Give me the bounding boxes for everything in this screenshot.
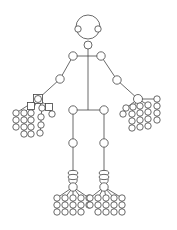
left-finger-joint [28, 131, 34, 137]
right-finger-joint [137, 103, 143, 109]
right-toe-joint [111, 195, 117, 201]
right-wrist-joint [134, 95, 143, 104]
right-toe-joint [119, 202, 125, 208]
left-toe-joint [70, 202, 76, 208]
l-knee-joint [69, 139, 77, 147]
left-toe-joint [78, 202, 84, 208]
right-toe-joint [119, 195, 125, 201]
right-finger-joint [129, 111, 135, 117]
right-finger-joint [154, 96, 160, 102]
right-eye-joint [95, 26, 101, 32]
right-foot-root [100, 183, 108, 191]
right-toe-joint [95, 202, 101, 208]
right-finger-joint [154, 103, 160, 109]
left-toe-joint [62, 209, 68, 215]
left-toe-joint [54, 195, 60, 201]
right-finger-joint [129, 118, 135, 124]
left-hand-square-joint [28, 103, 35, 110]
right-toe-joint [119, 209, 125, 215]
left-finger-joint [13, 110, 19, 116]
left-toe-joint [70, 209, 76, 215]
right-finger-joint [145, 123, 151, 129]
left-finger-joint [28, 110, 34, 116]
right-finger-joint [145, 102, 151, 108]
left-finger-joint [13, 117, 19, 123]
r-elbow-joint [113, 76, 121, 84]
right-finger-joint [123, 105, 129, 111]
neck-joint [84, 41, 92, 49]
r-hip-joint [100, 106, 108, 114]
left-finger-joint [37, 130, 43, 136]
left-finger-joint [38, 122, 44, 128]
left-toe-joint [62, 195, 68, 201]
right-toe-joint [111, 209, 117, 215]
right-finger-joint [145, 116, 151, 122]
right-toe-joint [111, 202, 117, 208]
skeleton-svg [0, 0, 177, 230]
right-finger-joint [154, 117, 160, 123]
left-toe-joint [62, 202, 68, 208]
left-toe-joint [54, 209, 60, 215]
right-finger-joint [137, 124, 143, 130]
right-toe-joint [87, 195, 93, 201]
right-finger-joint [137, 110, 143, 116]
right-toe-joint [95, 209, 101, 215]
left-wrist-joint [35, 96, 42, 103]
right-toe-joint [87, 202, 93, 208]
right-finger-joint [130, 104, 136, 110]
right-finger-joint [145, 109, 151, 115]
left-foot-root [69, 183, 77, 191]
l-hip-joint [69, 106, 77, 114]
right-finger-joint [137, 117, 143, 123]
l-shoulder-joint [69, 52, 77, 60]
left-hand-square-joint [46, 104, 53, 111]
left-toe-joint [54, 202, 60, 208]
left-finger-joint [21, 110, 27, 116]
skeleton-diagram [0, 0, 177, 230]
right-toe-joint [103, 202, 109, 208]
left-ankle-ellipse [68, 174, 78, 179]
l-elbow-joint [56, 75, 64, 83]
left-finger-joint [39, 105, 45, 111]
left-finger-joint [21, 124, 27, 130]
left-finger-joint [21, 117, 27, 123]
left-toe-joint [70, 195, 76, 201]
right-toe-joint [103, 195, 109, 201]
left-finger-joint [49, 111, 55, 117]
right-toe-joint [103, 209, 109, 215]
left-finger-joint [38, 114, 44, 120]
right-toe-joint [95, 195, 101, 201]
right-finger-joint [129, 125, 135, 131]
left-toe-joint [78, 209, 84, 215]
left-finger-joint [28, 124, 34, 130]
r-knee-joint [100, 139, 108, 147]
r-shoulder-joint [97, 52, 105, 60]
right-finger-joint [154, 110, 160, 116]
left-eye-joint [75, 26, 81, 32]
right-finger-joint [120, 111, 126, 117]
left-finger-joint [13, 124, 19, 130]
left-finger-joint [21, 131, 27, 137]
left-toe-joint [78, 195, 84, 201]
left-finger-joint [28, 117, 34, 123]
right-ankle-ellipse [99, 174, 109, 179]
